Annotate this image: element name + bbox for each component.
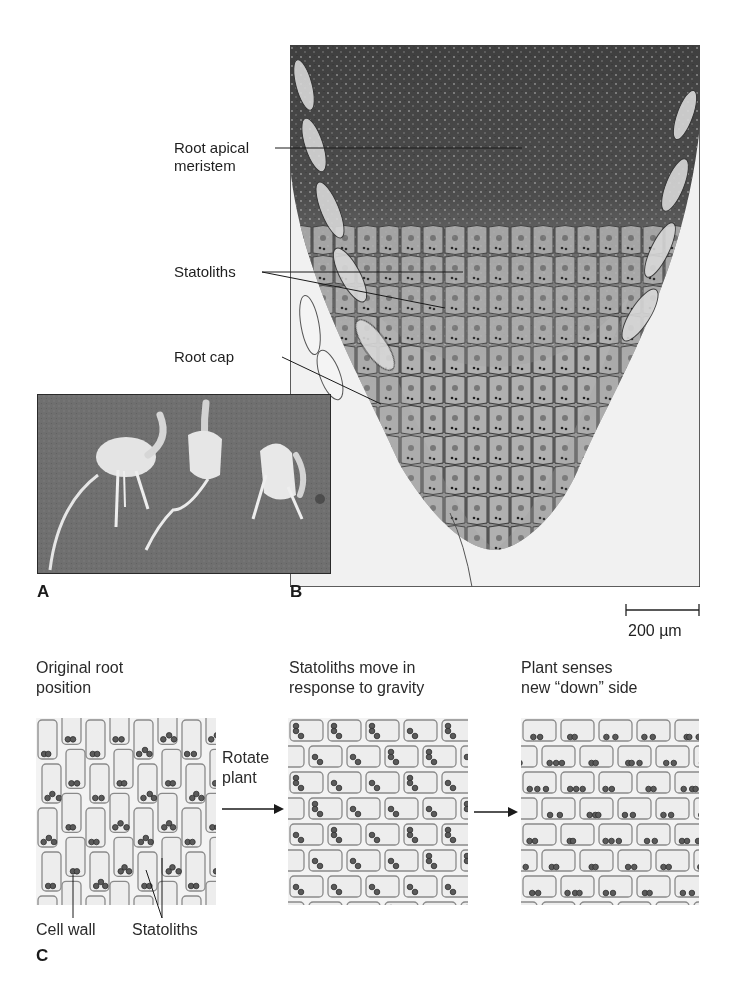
label-cell-wall: Cell wall [36,920,96,940]
callout-lines [0,0,730,997]
panel-letter-c: C [36,946,48,966]
label-statoliths-c: Statoliths [132,920,198,940]
leader-statoliths-c1 [146,870,162,918]
